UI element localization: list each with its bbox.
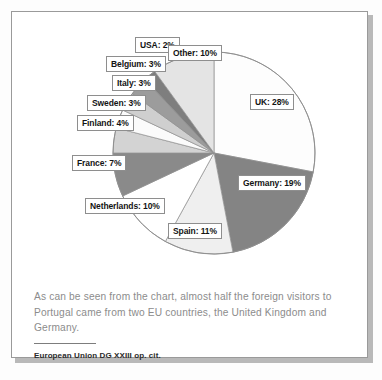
figure-panel: USA: 2% Belgium: 3% Italy: 3% Sweden: 3%… [11, 11, 368, 358]
figure-source: European Union DG XXIII op. cit. [34, 350, 334, 361]
pie-slice-uk [214, 52, 315, 172]
slice-label-sweden: Sweden: 3% [87, 95, 146, 111]
slice-label-france: France: 7% [72, 155, 126, 171]
slice-label-italy: Italy: 3% [112, 75, 156, 91]
page-root: USA: 2% Belgium: 3% Italy: 3% Sweden: 3%… [0, 0, 382, 380]
source-rule [34, 343, 96, 344]
slice-label-finland: Finland: 4% [77, 115, 134, 131]
slice-label-uk: UK: 28% [250, 94, 294, 110]
slice-label-netherlands: Netherlands: 10% [85, 198, 165, 214]
slice-label-belgium: Belgium: 3% [106, 56, 166, 72]
slice-label-spain: Spain: 11% [168, 223, 222, 239]
figure-caption: As can be seen from the chart, almost ha… [34, 289, 346, 336]
pie-chart: USA: 2% Belgium: 3% Italy: 3% Sweden: 3%… [12, 12, 367, 277]
slice-label-germany: Germany: 19% [238, 175, 306, 191]
slice-label-other: Other: 10% [168, 45, 222, 61]
